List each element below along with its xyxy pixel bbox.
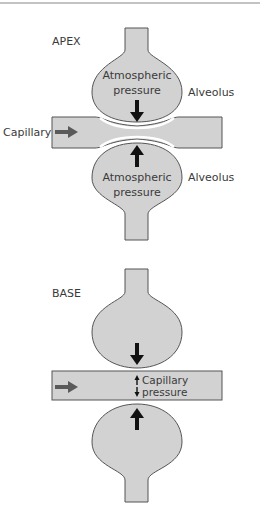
apex-upper-pressure-line2: pressure (113, 84, 161, 97)
base-title: BASE (52, 287, 81, 300)
apex-lower-pressure-line2: pressure (113, 186, 161, 199)
base-section: BASE Capillary (52, 269, 222, 502)
apex-lower-alveolus-label: Alveolus (188, 171, 235, 184)
base-capillary-pressure-line1: Capillary (142, 374, 188, 386)
apex-upper-alveolus-label: Alveolus (188, 86, 235, 99)
apex-capillary-label: Capillary (3, 126, 52, 139)
apex-upper-pressure-line1: Atmospheric (102, 69, 171, 82)
alveolar-capillary-diagram: APEX Capillary Atmospheric pressure Alve… (0, 0, 260, 525)
apex-lower-pressure-line1: Atmospheric (102, 171, 171, 184)
base-capillary-pressure-line2: pressure (142, 386, 187, 398)
apex-section: APEX Capillary Atmospheric pressure Alve… (3, 28, 235, 240)
apex-title: APEX (52, 35, 81, 48)
